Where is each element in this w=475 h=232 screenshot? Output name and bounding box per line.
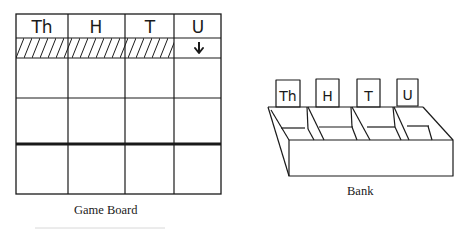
header-th: Th — [30, 17, 52, 37]
game-board-caption: Game Board — [74, 203, 138, 218]
bank-front-face — [289, 140, 453, 176]
header-h: H — [90, 17, 103, 37]
diagram-canvas: Th H T U — [0, 0, 475, 232]
bank-label-th: Th — [278, 88, 296, 104]
bank-caption: Bank — [347, 184, 373, 199]
board-headers: Th H T U — [30, 17, 204, 37]
header-t: T — [144, 17, 156, 37]
game-board — [16, 14, 221, 194]
bank-label-t: T — [363, 88, 373, 104]
header-u: U — [192, 17, 204, 37]
compartment-divider — [394, 107, 409, 140]
compartment-divider — [308, 107, 324, 140]
down-arrow-icon — [195, 42, 203, 53]
compartment-divider — [307, 107, 308, 129]
compartment-divider — [351, 107, 352, 127]
compartment-divider — [393, 107, 395, 127]
bank-label-h: H — [322, 88, 333, 104]
bank-label-u: U — [402, 87, 412, 103]
hatched-row — [16, 38, 174, 58]
